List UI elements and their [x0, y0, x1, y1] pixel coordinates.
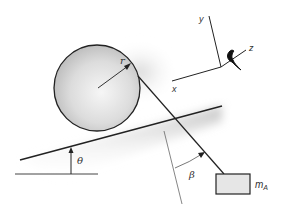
rotation-arrow-icon: [228, 50, 242, 70]
x-axis: [172, 67, 221, 81]
y-axis: [209, 16, 221, 67]
z-axis-label: z: [248, 43, 254, 53]
y-axis-label: y: [198, 14, 204, 24]
mass-label: mA: [255, 179, 268, 191]
cylinder-incline-diagram: θ r β mA y x z: [0, 0, 282, 212]
beta-arc: [175, 154, 202, 168]
theta-label: θ: [77, 155, 83, 166]
x-axis-label: x: [171, 84, 177, 94]
beta-label: β: [188, 169, 195, 180]
block-mA: [216, 174, 250, 194]
diagram-canvas: θ r β mA y x z: [0, 0, 282, 212]
beta-arrowhead-icon: [198, 152, 205, 158]
beta-reference-line: [164, 131, 182, 204]
z-axis: [221, 50, 246, 67]
cylinder: [54, 45, 140, 131]
